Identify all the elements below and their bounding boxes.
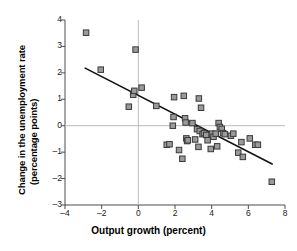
data-point-marker (181, 93, 187, 99)
data-point-marker (171, 114, 177, 120)
data-point-marker (126, 104, 132, 110)
data-point-marker (98, 67, 104, 73)
data-point-marker (214, 144, 220, 150)
data-point-marker (196, 96, 202, 102)
plot-area (0, 0, 297, 251)
data-point-marker (222, 131, 228, 137)
data-point-marker (196, 144, 202, 150)
data-point-marker (239, 139, 245, 145)
data-point-marker (205, 138, 211, 144)
data-point-marker (255, 142, 261, 148)
data-point-marker (203, 132, 209, 138)
data-point-marker (139, 85, 145, 91)
data-point-marker (133, 47, 139, 53)
zero-reference-lines (65, 20, 285, 205)
data-point-marker (208, 146, 214, 152)
data-point-marker (154, 103, 160, 109)
scatter-chart-figure: Change in the unemployment rate (percent… (0, 0, 297, 251)
data-point-marker (213, 131, 219, 137)
data-point-marker (240, 154, 246, 160)
data-point-marker (167, 141, 173, 147)
data-point-marker (180, 156, 186, 162)
data-point-marker (231, 131, 237, 137)
data-point-marker (171, 94, 177, 100)
data-point-marker (198, 105, 204, 111)
axis-lines (65, 20, 285, 205)
data-point-marker (247, 136, 253, 142)
data-point-marker (185, 138, 191, 144)
data-point-marker (176, 147, 182, 153)
data-point-marker (192, 137, 198, 143)
data-point-marker (132, 88, 138, 94)
data-point-marker (190, 120, 196, 126)
data-points (83, 30, 274, 185)
data-point-marker (170, 123, 176, 129)
data-point-marker (83, 30, 89, 36)
data-point-marker (269, 179, 275, 185)
data-point-marker (183, 120, 189, 126)
